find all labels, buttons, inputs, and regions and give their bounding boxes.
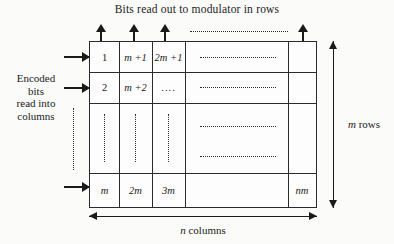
left-caption-line-1: Encoded (2, 72, 70, 85)
interleaver-grid: 1 m +1 2m +1 2 m +2 .... m 2m 3m nm (89, 41, 317, 208)
cell-r1c3: 2m +1 (152, 42, 185, 72)
block-interleaver-diagram: Bits read out to modulator in rows Encod… (0, 0, 394, 244)
dotted-line-between-in-arrows (73, 108, 74, 170)
diagram-title: Bits read out to modulator in rows (0, 3, 394, 15)
grid-column-divider-3 (185, 42, 186, 207)
cell-r1c4-dots (200, 57, 276, 58)
cell-r4c1: m (90, 173, 119, 207)
dotted-line-between-out-arrows (190, 31, 288, 32)
cell-r1c1: 1 (90, 42, 119, 72)
cell-r3c2-dots (135, 114, 136, 162)
cell-r2c1: 2 (90, 72, 119, 103)
cell-r3c4-dots-upper (200, 126, 276, 127)
cell-r2c2: m +2 (119, 72, 152, 103)
cell-r4c2: 2m (119, 173, 152, 207)
rows-measure-symbol: m (348, 118, 356, 130)
rows-measure-label: m rows (348, 118, 380, 130)
grid-row-divider-2 (90, 103, 316, 104)
cell-r2c3: .... (152, 72, 185, 103)
left-caption: Encoded bits read into columns (2, 72, 70, 122)
columns-measure-label: n columns (89, 224, 317, 236)
rows-measure-text: rows (356, 118, 380, 130)
cell-r3c3-dots (168, 114, 169, 162)
left-caption-line-4: columns (2, 110, 70, 123)
cell-r4c3: 3m (152, 173, 185, 207)
columns-measure-text: columns (186, 224, 226, 236)
cell-r4c5: nm (288, 173, 316, 207)
left-caption-line-3: read into (2, 97, 70, 110)
cell-r1c2: m +1 (119, 42, 152, 72)
cell-r2c4-dots (200, 87, 276, 88)
left-caption-line-2: bits (2, 85, 70, 98)
cell-r3c4-dots-lower (200, 156, 276, 157)
cell-r3c1-dots (104, 114, 105, 162)
